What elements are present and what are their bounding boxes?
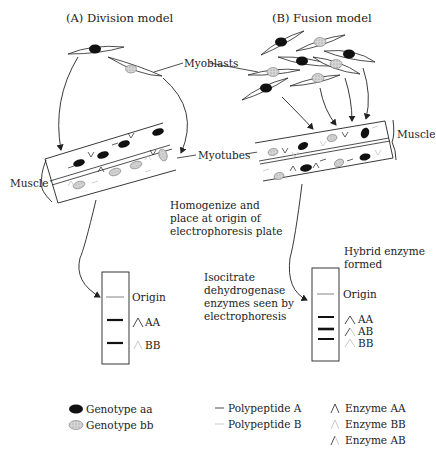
arrow-to-gel-b <box>289 184 307 300</box>
muscle-label-left: Muscle <box>10 177 48 189</box>
legend-genotype-aa: Genotype aa <box>86 403 153 415</box>
enzyme-ab-icon-gel-b <box>345 328 350 336</box>
hybrid-line-1: Hybrid enzyme <box>344 245 425 257</box>
enzyme-aa-icon-gel-a <box>133 318 143 327</box>
arrow-fusion-1 <box>282 97 313 129</box>
panel-a-title: (A) Division model <box>66 12 173 24</box>
enzyme-aa-icon-gel-b <box>345 316 355 324</box>
homogenize-line-2: place at origin of <box>170 212 261 224</box>
arrow-fusion-2 <box>320 88 336 125</box>
gel-b-band-aa-label: AA <box>358 313 373 325</box>
genotype-bb-icon <box>69 421 83 430</box>
gel-plate-division <box>102 272 129 364</box>
muscle-brace-right <box>392 120 396 160</box>
myoblasts-leader-line <box>154 63 183 72</box>
enzyme-ab-legend-icon-a <box>331 436 335 445</box>
gel-a-band-bb-label: BB <box>145 339 160 351</box>
homogenize-line-1: Homogenize and <box>170 199 260 211</box>
legend-genotype-bb: Genotype bb <box>86 419 154 431</box>
legend-enzyme-bb: Enzyme BB <box>345 418 406 430</box>
enzyme-bb-icon-gel-a <box>134 341 142 349</box>
muscle-label-right: Muscle <box>397 128 435 140</box>
myotubes-leader-line-a <box>177 155 196 158</box>
legend-enzyme-ab: Enzyme AB <box>345 434 406 446</box>
enzyme-bb-icon-gel-b <box>345 339 355 347</box>
panel-b-title: (B) Fusion model <box>272 12 372 24</box>
isocitrate-line-2: dehydrogenase <box>204 284 285 296</box>
homogenize-line-3: electrophoresis plate <box>170 225 283 237</box>
myoblasts-label: Myoblasts <box>184 57 238 69</box>
arrow-to-gel-a <box>79 200 100 297</box>
arrow-fusion-4 <box>363 68 368 119</box>
gel-a-band-aa-label: AA <box>145 316 160 328</box>
myoblasts-fusion <box>242 31 375 100</box>
enzyme-bb-legend-icon <box>331 420 339 429</box>
arrow-division-left <box>59 57 78 150</box>
myotubes-label: Myotubes <box>198 149 250 161</box>
genotype-aa-icon <box>69 405 83 414</box>
gel-a-origin-label: Origin <box>132 291 166 303</box>
isocitrate-line-4: electrophoresis <box>204 310 286 322</box>
enzyme-ab-icon-gel-b-light <box>350 328 355 336</box>
muscle-division <box>45 123 176 203</box>
muscle-fusion <box>255 121 393 181</box>
gel-plate-fusion <box>312 268 339 361</box>
legend-polypeptide-a: Polypeptide A <box>228 402 301 414</box>
hybrid-line-2: formed <box>344 258 382 270</box>
isocitrate-line-1: Isocitrate <box>204 271 255 283</box>
gel-b-band-ab-label: AB <box>358 325 373 337</box>
legend-enzyme-aa: Enzyme AA <box>345 402 406 414</box>
enzyme-ab-legend-icon-b <box>335 436 339 445</box>
arrow-fusion-3 <box>345 78 352 121</box>
myoblast-aa-division <box>68 45 124 55</box>
gel-b-origin-label: Origin <box>343 288 377 300</box>
enzyme-aa-legend-icon <box>331 404 339 413</box>
legend-polypeptide-b: Polypeptide B <box>228 418 301 430</box>
gel-b-band-bb-label: BB <box>358 337 373 349</box>
isocitrate-line-3: enzymes seen by <box>204 297 294 309</box>
myoblast-bb-division <box>108 57 162 76</box>
